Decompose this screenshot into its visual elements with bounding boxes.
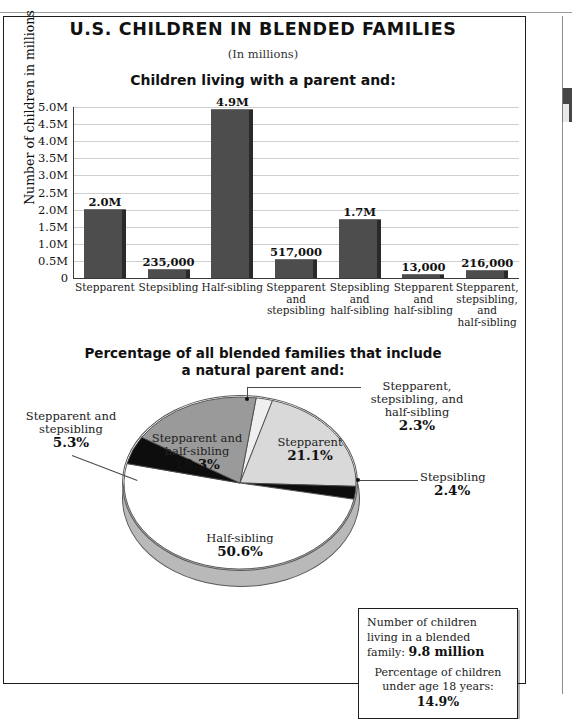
gridline (73, 210, 519, 211)
y-axis-line (73, 107, 74, 279)
bar-side-shadow (186, 270, 190, 278)
bar (148, 270, 190, 278)
info-line-1-value: 9.8 million (409, 644, 485, 659)
bar-value-label: 216,000 (427, 256, 547, 270)
pie-value-sp-hs: 18.3% (174, 456, 220, 472)
bar-side-shadow (504, 271, 508, 278)
y-tick-label: 1.0M (22, 239, 68, 249)
bar-chart: Number of children in millions 5.0M4.5M4… (0, 0, 572, 340)
pie-label-all-three-l1: Stepparent, (383, 379, 452, 393)
gridline (73, 107, 519, 108)
pie-label-sp-hs-l1: Stepparent and (152, 431, 243, 445)
y-tick-label: 3.5M (22, 153, 68, 163)
x-axis-line (73, 278, 519, 279)
gridline (73, 193, 519, 194)
pie-value-sp-ss: 5.3% (53, 434, 89, 450)
y-tick-label: 4.0M (22, 136, 68, 146)
info-line-2-text: Percentage of children under age 18 year… (375, 666, 502, 694)
bar-body (275, 259, 317, 278)
bar-side-shadow (313, 260, 317, 278)
bar-body (466, 270, 508, 278)
bar-value-label: 4.9M (172, 95, 292, 109)
pie-stage (122, 385, 358, 600)
pie-label-stepparent: Stepparent 21.1% (255, 436, 365, 463)
y-tick-label: 0 (22, 273, 68, 283)
gridline (73, 158, 519, 159)
pie-value-all-three: 2.3% (399, 417, 435, 433)
gridline (73, 175, 519, 176)
leader-line-stepsibling (360, 480, 418, 481)
gridline (73, 124, 519, 125)
pie-label-all-three-l2: stepsibling, and (371, 392, 464, 406)
bar-value-label: 2.0M (45, 195, 165, 209)
bar-side-shadow (440, 275, 444, 278)
y-tick-label: 1.5M (22, 222, 68, 232)
summary-info-box: Number of children living in a blended f… (358, 608, 518, 719)
pie-value-halfsibling: 50.6% (217, 543, 263, 559)
pie-label-stepsibling: Stepsibling 2.4% (420, 471, 530, 498)
pie-label-halfsibling: Half-sibling 50.6% (185, 532, 295, 559)
bar (402, 275, 444, 278)
bar-category-label: Stepparent,stepsibling,andhalf-sibling (445, 282, 529, 328)
gridline (73, 141, 519, 142)
info-line-2: Percentage of children under age 18 year… (367, 666, 509, 711)
pie-value-stepsibling: 2.4% (434, 482, 470, 498)
pie-value-stepparent: 21.1% (287, 447, 333, 463)
info-line-1: Number of children living in a blended f… (367, 616, 509, 661)
y-tick-label: 0.5M (22, 256, 68, 266)
leader-line-all-three-horiz (247, 387, 361, 388)
pie-label-sp-ss-l1: Stepparent and (26, 409, 117, 423)
bar (275, 260, 317, 278)
bar-value-label: 1.7M (300, 205, 420, 219)
gridline (73, 227, 519, 228)
info-line-2-value: 14.9% (417, 694, 459, 709)
callout-dot-stepsibling (356, 478, 360, 482)
y-tick-label: 4.5M (22, 119, 68, 129)
y-tick-label: 3.0M (22, 170, 68, 180)
pie-label-all-three: Stepparent, stepsibling, and half-siblin… (352, 380, 482, 433)
bar (466, 271, 508, 278)
bar-body (148, 269, 190, 278)
y-tick-label: 5.0M (22, 102, 68, 112)
pie-chart: Stepparent, stepsibling, and half-siblin… (0, 340, 572, 630)
pie-label-sp-ss: Stepparent and stepsibling 5.3% (6, 410, 136, 450)
bar-body (402, 274, 444, 278)
pie-label-sp-hs: Stepparent and half-sibling 18.3% (137, 432, 257, 472)
callout-dot-all-three (245, 397, 249, 401)
